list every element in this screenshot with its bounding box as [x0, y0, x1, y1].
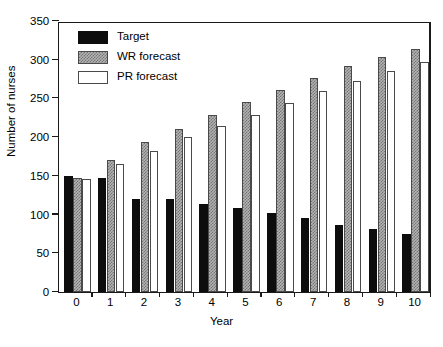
x-axis-title: Year	[0, 316, 443, 328]
y-tick-label: 250	[30, 94, 49, 106]
x-tick-label: 8	[344, 297, 350, 309]
x-tick	[125, 292, 126, 297]
x-tick	[430, 292, 431, 297]
x-tick-label: 4	[208, 297, 214, 309]
y-tick	[52, 213, 59, 214]
bar-pr-forecast-year-1	[116, 164, 124, 292]
bar-pr-forecast-year-8	[353, 81, 361, 292]
x-tick-label: 1	[107, 297, 113, 309]
x-tick-label: 5	[242, 297, 248, 309]
bar-wr-forecast-year-7	[310, 78, 318, 292]
legend-item: WR forecast	[78, 50, 180, 64]
x-tick-label: 0	[73, 297, 79, 309]
bar-wr-forecast-year-2	[141, 142, 149, 292]
y-tick	[52, 97, 59, 98]
bar-target-year-1	[98, 178, 106, 292]
x-tick-label: 6	[276, 297, 282, 309]
y-tick-label: 200	[30, 132, 49, 144]
bar-wr-forecast-year-3	[175, 129, 183, 292]
bar-pr-forecast-year-7	[319, 91, 327, 292]
y-tick-label: 350	[30, 16, 49, 28]
y-tick	[52, 59, 59, 60]
bar-target-year-0	[64, 176, 72, 292]
legend-label: Target	[117, 31, 149, 43]
bar-target-year-10	[402, 234, 410, 292]
bar-wr-forecast-year-1	[107, 160, 115, 292]
bar-wr-forecast-year-8	[344, 66, 352, 292]
bar-target-year-5	[233, 208, 241, 292]
x-tick	[159, 292, 160, 297]
bar-target-year-9	[369, 229, 377, 292]
x-tick-label: 10	[408, 297, 421, 309]
y-tick-label: 150	[30, 171, 49, 183]
bar-wr-forecast-year-10	[411, 49, 419, 292]
bar-pr-forecast-year-6	[285, 103, 293, 292]
y-tick	[52, 20, 59, 21]
x-tick-label: 9	[378, 297, 384, 309]
bar-pr-forecast-year-2	[150, 151, 158, 292]
bar-target-year-4	[199, 204, 207, 292]
bar-wr-forecast-year-6	[276, 90, 284, 292]
legend-label: WR forecast	[117, 51, 180, 63]
chart-legend: TargetWR forecastPR forecast	[78, 30, 180, 84]
x-tick	[260, 292, 261, 297]
bar-wr-forecast-year-4	[208, 115, 216, 292]
bar-pr-forecast-year-10	[420, 62, 428, 292]
bar-target-year-2	[132, 199, 140, 292]
x-tick	[91, 292, 92, 297]
x-tick-label: 3	[175, 297, 181, 309]
legend-item: Target	[78, 30, 180, 44]
bar-target-year-6	[267, 213, 275, 292]
y-tick-label: 100	[30, 210, 49, 222]
bar-pr-forecast-year-9	[387, 71, 395, 292]
gray-hatch-swatch	[78, 51, 108, 64]
y-tick	[52, 291, 59, 292]
x-tick	[227, 292, 228, 297]
bar-pr-forecast-year-0	[82, 179, 90, 292]
x-tick	[396, 292, 397, 297]
y-tick-label: 300	[30, 55, 49, 67]
bar-wr-forecast-year-5	[242, 102, 250, 292]
x-tick-label: 7	[310, 297, 316, 309]
black-swatch	[78, 31, 108, 44]
bar-pr-forecast-year-3	[184, 137, 192, 292]
bar-wr-forecast-year-0	[73, 178, 81, 292]
x-tick	[362, 292, 363, 297]
y-tick	[52, 175, 59, 176]
bar-target-year-8	[335, 225, 343, 292]
bar-pr-forecast-year-4	[217, 126, 225, 292]
x-tick	[294, 292, 295, 297]
bar-wr-forecast-year-9	[378, 57, 386, 292]
bar-target-year-3	[166, 199, 174, 292]
x-tick	[328, 292, 329, 297]
bar-pr-forecast-year-5	[251, 115, 259, 292]
y-tick-label: 50	[36, 249, 49, 261]
y-tick	[52, 136, 59, 137]
x-tick	[193, 292, 194, 297]
bar-target-year-7	[301, 218, 309, 292]
y-tick-label: 0	[43, 287, 49, 299]
legend-label: PR forecast	[117, 71, 177, 83]
y-axis-title: Number of nurses	[6, 66, 18, 157]
white-swatch	[78, 71, 108, 84]
bar-chart-figure: Number of nurses 050100150200250300350 0…	[0, 0, 443, 347]
legend-item: PR forecast	[78, 70, 180, 84]
y-tick	[52, 252, 59, 253]
x-tick-label: 2	[141, 297, 147, 309]
